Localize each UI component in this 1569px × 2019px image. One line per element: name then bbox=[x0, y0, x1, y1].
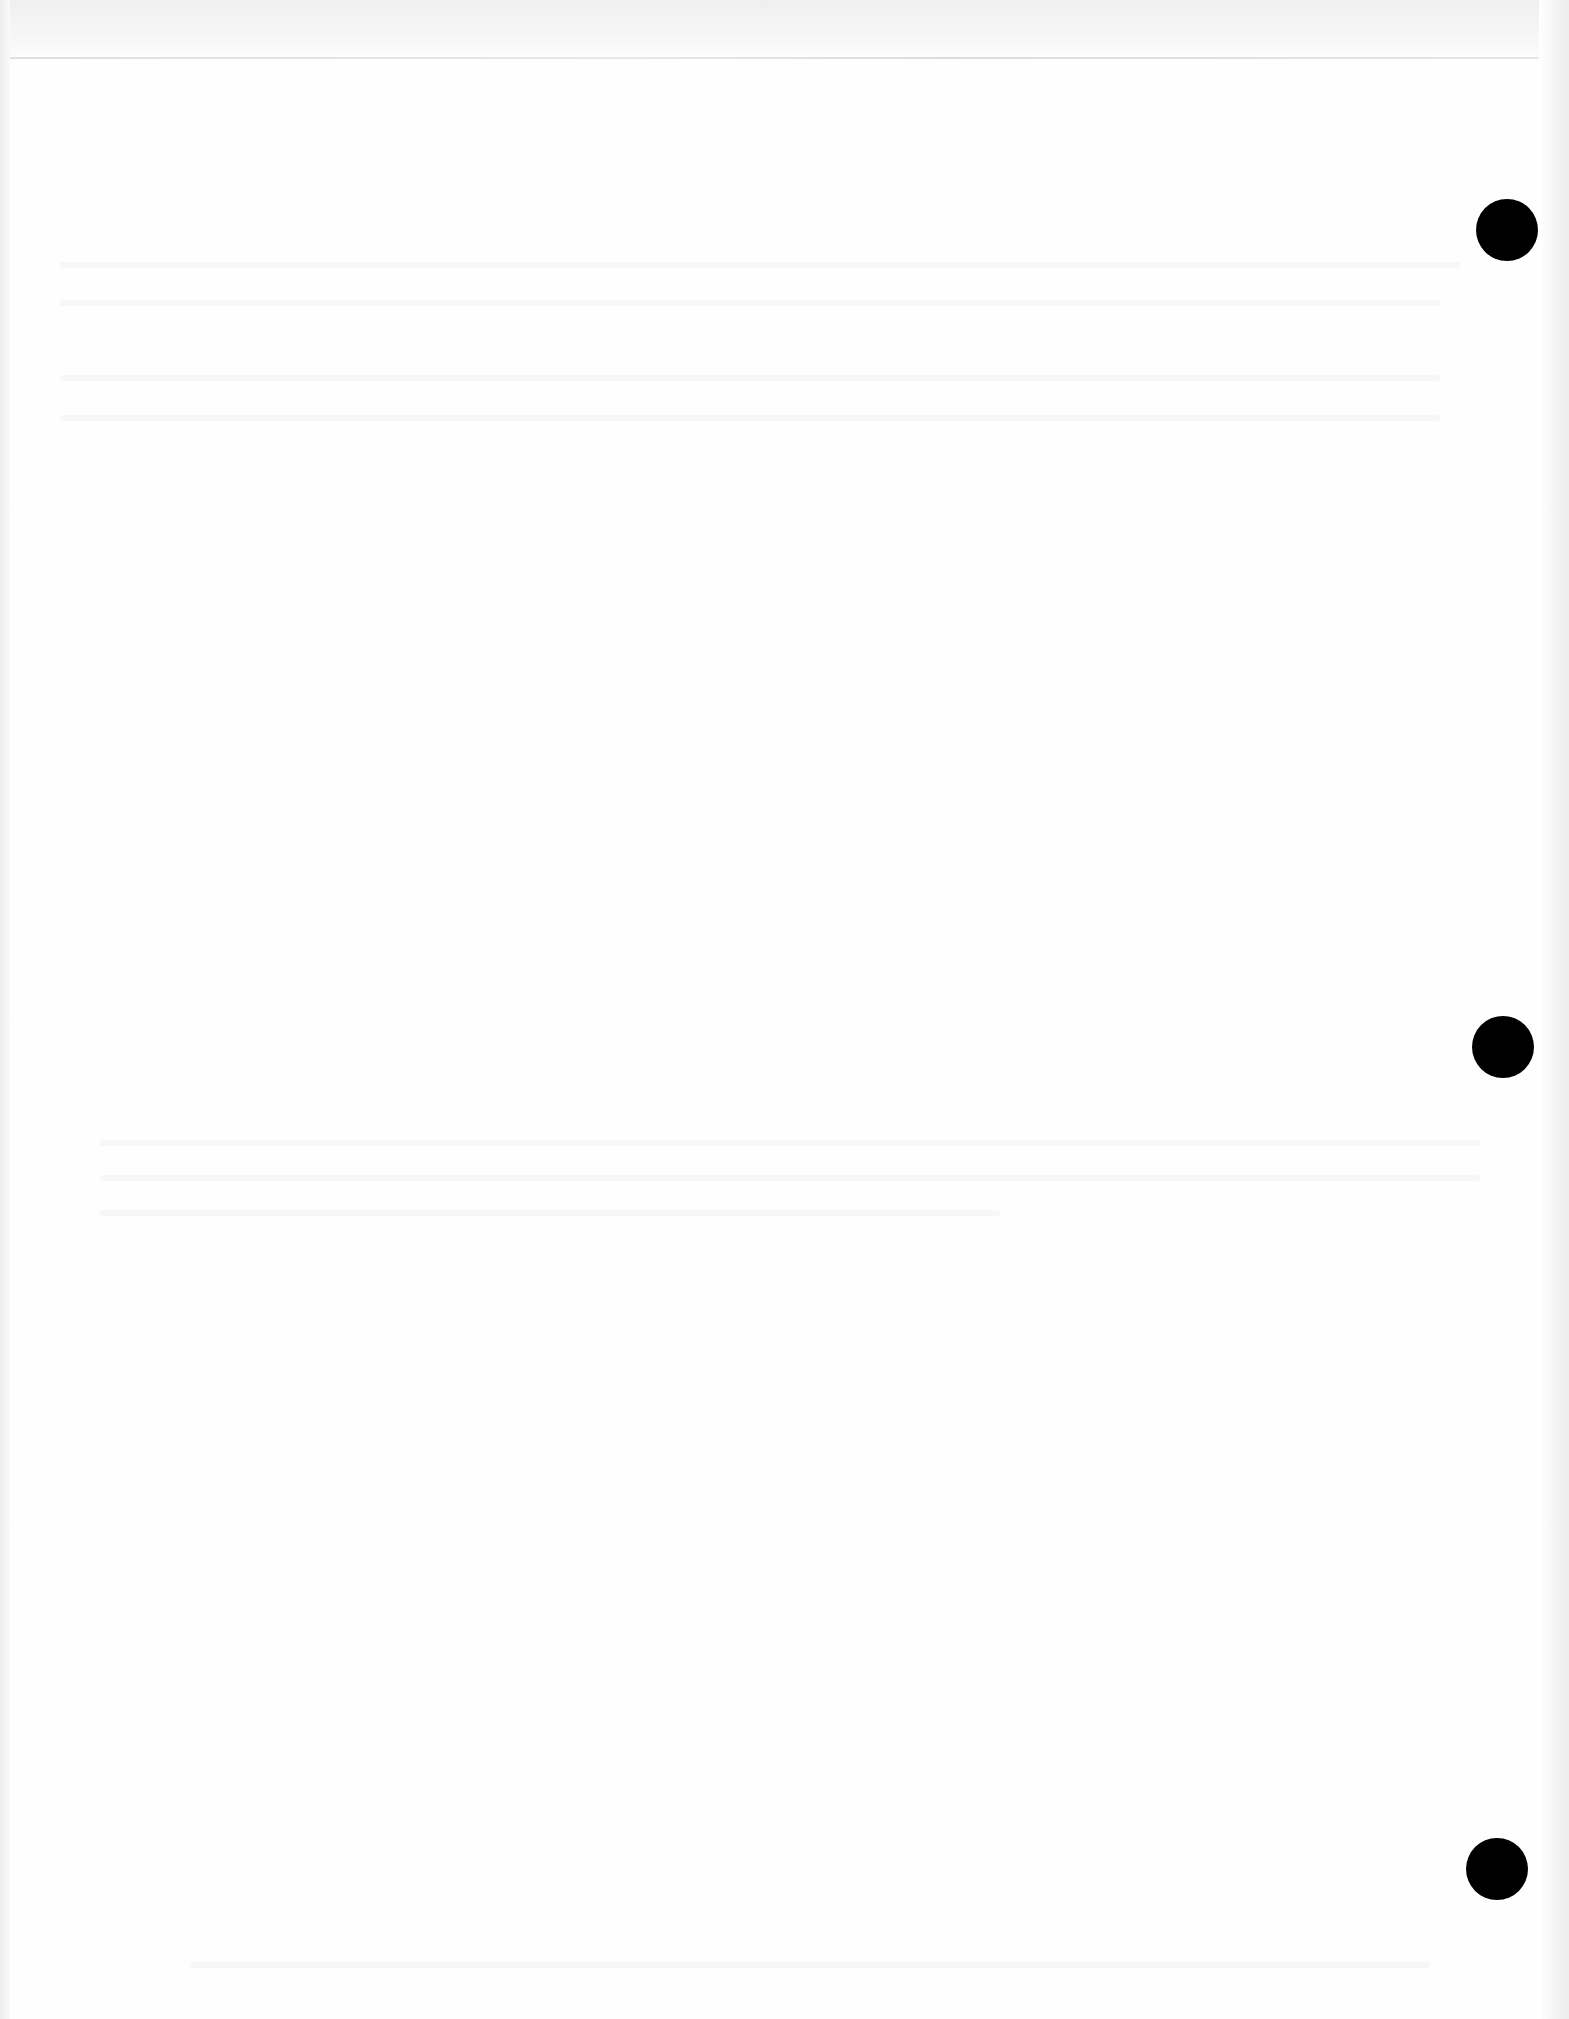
bleed-through-trace bbox=[100, 1210, 1000, 1216]
punch-hole-bottom bbox=[1466, 1838, 1528, 1900]
bleed-through-trace bbox=[60, 415, 1440, 421]
bleed-through-trace bbox=[60, 262, 1460, 268]
scan-top-edge-shadow bbox=[0, 0, 1569, 60]
scan-left-edge-shadow bbox=[0, 0, 10, 2019]
punch-hole-middle bbox=[1472, 1016, 1534, 1078]
scan-right-edge-shadow bbox=[1539, 0, 1569, 2019]
punch-hole-top bbox=[1476, 199, 1538, 261]
bleed-through-trace bbox=[60, 300, 1440, 306]
bleed-through-trace bbox=[100, 1140, 1480, 1146]
bleed-through-trace bbox=[60, 375, 1440, 381]
scanned-page bbox=[0, 0, 1569, 2019]
bleed-through-trace bbox=[190, 1962, 1430, 1968]
scan-top-edge-line bbox=[0, 57, 1569, 59]
bleed-through-trace bbox=[100, 1175, 1480, 1181]
